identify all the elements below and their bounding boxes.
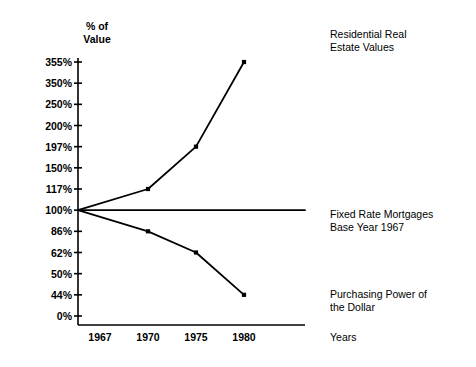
annotation-fixed-rate-mortgages: Fixed Rate Mortgages Base Year 1967 bbox=[330, 208, 476, 234]
annotation-residential-real-estate-values: Residential Real Estate Values bbox=[330, 28, 476, 54]
x-axis-title-years: Years bbox=[330, 331, 476, 344]
annotation-purchasing-power-of-the-dollar: Purchasing Power of the Dollar bbox=[330, 288, 476, 314]
x-tick-label: 1980 bbox=[214, 331, 274, 343]
chart-figure: % of Value 355%350%250%200%197%150%117%1… bbox=[0, 0, 476, 367]
